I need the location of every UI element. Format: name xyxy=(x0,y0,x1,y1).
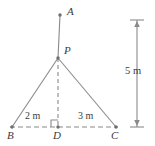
geometry-figure: A P B D C 2 m 3 m 5 m xyxy=(0,0,155,146)
point-dot-p xyxy=(56,56,59,59)
dimension-arrowhead-down-icon xyxy=(134,120,140,126)
point-label-c: C xyxy=(111,130,118,141)
dimension-arrowhead-up-icon xyxy=(134,21,140,27)
point-label-d: D xyxy=(53,130,61,141)
point-dot-a xyxy=(58,13,61,16)
point-label-a: A xyxy=(67,6,74,17)
point-label-b: B xyxy=(7,130,14,141)
dimension-label-vertical: 5 m xyxy=(125,66,141,77)
point-label-p: P xyxy=(64,45,71,56)
dimension-label-dc: 3 m xyxy=(78,111,93,121)
dimension-label-bd: 2 m xyxy=(25,111,40,121)
segment-a-p xyxy=(58,15,60,58)
